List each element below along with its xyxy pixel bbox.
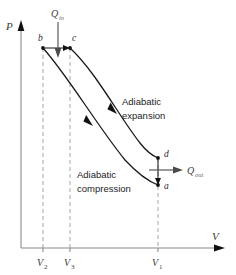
state-point-d-marker (156, 156, 160, 160)
qin-label: Q in (51, 8, 64, 21)
state-point-d-label: d (164, 149, 169, 159)
adiabatic-compression-label-line2: compression (77, 183, 131, 194)
state-point-b-marker (41, 46, 45, 50)
qout-label: Q out (187, 165, 204, 178)
adiabatic-compression-arrowhead (83, 115, 93, 126)
qin-arrowhead (55, 48, 62, 58)
adiabatic-expansion-label-line1: Adiabatic (122, 96, 161, 107)
state-point-c-label: c (72, 33, 77, 43)
pressure-axis-arrowhead (18, 20, 25, 31)
state-point-a-marker (156, 183, 160, 187)
pressure-axis-label: P (5, 20, 13, 32)
tick-label-v2: V 2 (37, 257, 48, 271)
qout-label-subscript: out (195, 171, 204, 178)
adiabatic-expansion-label-line2: expansion (122, 110, 165, 121)
adiabatic-expansion-label: Adiabatic expansion (122, 96, 165, 121)
tick-label-v3: V 3 (64, 257, 75, 271)
tick-label-v2-subscript: 2 (44, 263, 48, 271)
tick-label-v1: V 1 (152, 257, 163, 271)
qin-label-subscript: in (59, 14, 64, 21)
state-point-a-label: a (164, 181, 169, 191)
volume-axis-label: V (212, 230, 220, 242)
qout-label-base: Q (187, 165, 195, 176)
tick-label-v3-subscript: 3 (71, 263, 75, 271)
qout-arrowhead (173, 167, 183, 174)
volume-axis-arrowhead (214, 245, 225, 252)
pv-diagram-figure: P V b c d a Q in Q out Adiabatic expansi… (0, 0, 236, 275)
state-point-c-marker (68, 46, 72, 50)
adiabatic-compression-label-line1: Adiabatic (77, 169, 116, 180)
tick-label-v1-subscript: 1 (159, 263, 163, 271)
adiabatic-compression-label: Adiabatic compression (77, 169, 131, 194)
state-point-b-label: b (38, 33, 43, 43)
qin-label-base: Q (51, 8, 59, 19)
